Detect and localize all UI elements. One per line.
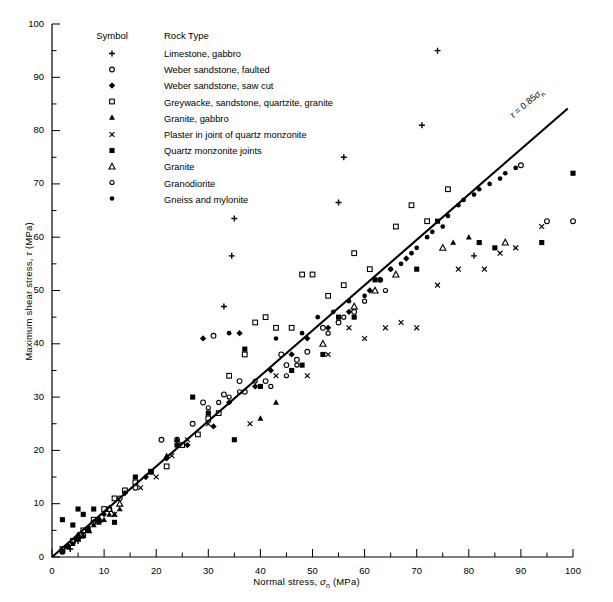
legend-marker-cross-icon bbox=[86, 127, 138, 143]
legend-item: Gneiss and mylonite bbox=[86, 192, 333, 208]
x-tick-label: 10 bbox=[90, 565, 118, 576]
legend-item: Quartz monzonite joints bbox=[86, 143, 333, 159]
y-tick-label: 30 bbox=[16, 391, 44, 402]
legend-header-rock-type: Rock Type bbox=[138, 30, 333, 46]
x-tick-label: 50 bbox=[299, 565, 327, 576]
y-tick-label: 90 bbox=[16, 71, 44, 82]
legend-label: Plaster in joint of quartz monzonite bbox=[138, 127, 333, 143]
x-tick-label: 100 bbox=[559, 565, 587, 576]
y-tick-label: 40 bbox=[16, 337, 44, 348]
legend-item: Weber sandstone, saw cut bbox=[86, 78, 333, 94]
legend-marker-open-square-icon bbox=[86, 95, 138, 111]
y-tick-label: 70 bbox=[16, 177, 44, 188]
x-tick-label: 70 bbox=[403, 565, 431, 576]
legend-item: Greywacke, sandstone, quartzite, granite bbox=[86, 95, 333, 111]
x-tick-label: 30 bbox=[194, 565, 222, 576]
legend-label: Gneiss and mylonite bbox=[138, 192, 333, 208]
chart-legend: Symbol Rock Type Limestone, gabbroWeber … bbox=[86, 30, 333, 208]
legend-item: Weber sandstone, faulted bbox=[86, 62, 333, 78]
legend-marker-filled-diamond-icon bbox=[86, 78, 138, 94]
legend-marker-plus-icon bbox=[86, 46, 138, 62]
legend-label: Weber sandstone, saw cut bbox=[138, 78, 333, 94]
legend-label: Granite, gabbro bbox=[138, 111, 333, 127]
y-tick-label: 60 bbox=[16, 231, 44, 242]
x-tick-label: 60 bbox=[351, 565, 379, 576]
y-tick-label: 80 bbox=[16, 124, 44, 135]
y-tick-label: 0 bbox=[16, 551, 44, 562]
series-6 bbox=[60, 171, 576, 528]
legend-marker-open-triangle-icon bbox=[86, 159, 138, 175]
legend-label: Granodiorite bbox=[138, 176, 333, 192]
legend-marker-filled-circle-icon bbox=[86, 192, 138, 208]
legend-item: Plaster in joint of quartz monzonite bbox=[86, 127, 333, 143]
x-tick-label: 90 bbox=[507, 565, 535, 576]
legend-item: Limestone, gabbro bbox=[86, 46, 333, 62]
legend-label: Greywacke, sandstone, quartzite, granite bbox=[138, 95, 333, 111]
legend-header-symbol: Symbol bbox=[86, 30, 138, 46]
legend-item: Granite, gabbro bbox=[86, 111, 333, 127]
series-1 bbox=[60, 163, 575, 554]
legend-marker-open-circle-icon bbox=[86, 62, 138, 78]
y-tick-label: 10 bbox=[16, 497, 44, 508]
legend-label: Quartz monzonite joints bbox=[138, 143, 333, 159]
legend-marker-filled-triangle-icon bbox=[86, 111, 138, 127]
legend-item: Granite bbox=[86, 159, 333, 175]
legend-marker-open-circle-small-icon bbox=[86, 176, 138, 192]
y-tick-label: 50 bbox=[16, 284, 44, 295]
x-tick-label: 0 bbox=[38, 565, 66, 576]
y-tick-label: 100 bbox=[16, 18, 44, 29]
x-axis-title: Normal stress, σn (MPa) bbox=[0, 576, 613, 589]
series-7 bbox=[65, 239, 509, 549]
legend-label: Limestone, gabbro bbox=[138, 46, 333, 62]
x-tick-label: 20 bbox=[142, 565, 170, 576]
series-5 bbox=[112, 224, 544, 517]
x-tick-label: 80 bbox=[455, 565, 483, 576]
x-tick-label: 40 bbox=[246, 565, 274, 576]
series-2 bbox=[64, 255, 409, 549]
legend-label: Weber sandstone, faulted bbox=[138, 62, 333, 78]
legend-label: Granite bbox=[138, 159, 333, 175]
legend-item: Granodiorite bbox=[86, 176, 333, 192]
y-tick-label: 20 bbox=[16, 444, 44, 455]
legend-marker-filled-square-icon bbox=[86, 143, 138, 159]
